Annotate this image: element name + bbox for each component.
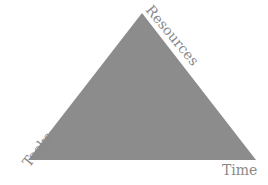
triangle-diagram: Resources Tasks Time [0, 0, 268, 185]
triangle-shape [28, 13, 256, 160]
label-time: Time [222, 162, 257, 178]
